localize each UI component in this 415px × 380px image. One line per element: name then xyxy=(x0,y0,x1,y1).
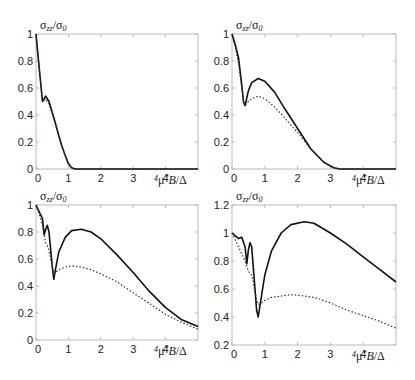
y-axis-label: σzz/σ0 xyxy=(40,18,67,33)
dotted-curve xyxy=(232,34,396,169)
x-axis-label: 4μ*B/Δ xyxy=(352,349,385,363)
y-tick-label: 0 xyxy=(27,163,33,175)
x-axis-label: 4μ*B/Δ xyxy=(352,173,385,187)
x-tick-label: 3 xyxy=(130,172,136,184)
x-tick-label: 3 xyxy=(130,343,136,355)
y-tick-label: 0.8 xyxy=(18,55,33,67)
y-tick-label: 0.8 xyxy=(214,55,229,67)
y-tick-label: 0.4 xyxy=(18,280,33,292)
y-tick-label: 0.2 xyxy=(18,136,33,148)
y-axis-label: σzz/σ0 xyxy=(236,18,263,33)
figure: 0123400.20.40.60.81σzz/σ04μ*B/Δ 0123400.… xyxy=(0,0,415,380)
x-tick-label: 1 xyxy=(65,172,71,184)
x-tick-label: 3 xyxy=(327,348,333,360)
plot-frame xyxy=(36,205,198,340)
x-tick-label: 1 xyxy=(262,172,268,184)
dotted-curve xyxy=(232,233,396,328)
x-tick-label: 2 xyxy=(295,348,301,360)
x-tick-label: 2 xyxy=(98,172,104,184)
panel-bottom-right: 012340.20.40.60.811.2σzz/σ04μ*B/Δ xyxy=(214,189,396,363)
y-tick-label: 0.4 xyxy=(214,311,229,323)
y-tick-label: 0.4 xyxy=(18,109,33,121)
x-tick-label: 1 xyxy=(262,348,268,360)
y-tick-label: 1.2 xyxy=(214,199,229,211)
dotted-curve xyxy=(36,205,198,329)
x-tick-label: 0 xyxy=(231,172,237,184)
y-tick-label: 0 xyxy=(27,334,33,346)
y-axis-label: σzz/σ0 xyxy=(40,189,67,204)
x-axis-label: 4μ*B/Δ xyxy=(154,344,187,358)
y-tick-label: 1 xyxy=(27,199,33,211)
x-axis-label: 4μ*B/Δ xyxy=(154,173,187,187)
x-tick-label: 0 xyxy=(35,172,41,184)
y-tick-label: 0 xyxy=(223,163,229,175)
x-tick-label: 0 xyxy=(231,348,237,360)
dotted-curve xyxy=(36,34,198,169)
plot-frame xyxy=(232,205,396,345)
panel-top-left: 0123400.20.40.60.81σzz/σ04μ*B/Δ xyxy=(18,18,198,187)
y-tick-label: 0.6 xyxy=(214,283,229,295)
y-tick-label: 0.2 xyxy=(214,136,229,148)
solid-curve xyxy=(36,205,198,327)
y-tick-label: 1 xyxy=(27,28,33,40)
y-tick-label: 1 xyxy=(223,227,229,239)
y-tick-label: 0.6 xyxy=(18,82,33,94)
plot-frame xyxy=(232,34,396,169)
y-tick-label: 1 xyxy=(223,28,229,40)
solid-curve xyxy=(36,34,198,169)
plot-frame xyxy=(36,34,198,169)
x-tick-label: 1 xyxy=(65,343,71,355)
x-tick-label: 3 xyxy=(327,172,333,184)
y-tick-label: 0.6 xyxy=(18,253,33,265)
x-tick-label: 0 xyxy=(35,343,41,355)
y-axis-label: σzz/σ0 xyxy=(236,189,263,204)
solid-curve xyxy=(232,34,396,169)
y-tick-label: 0.4 xyxy=(214,109,229,121)
y-tick-label: 0.8 xyxy=(18,226,33,238)
y-tick-label: 0.2 xyxy=(214,339,229,351)
panel-top-right: 0123400.20.40.60.81σzz/σ04μ*B/Δ xyxy=(214,18,396,187)
x-tick-label: 2 xyxy=(295,172,301,184)
y-tick-label: 0.8 xyxy=(214,255,229,267)
y-tick-label: 0.2 xyxy=(18,307,33,319)
solid-curve xyxy=(232,222,396,317)
x-tick-label: 2 xyxy=(98,343,104,355)
panel-bottom-left: 0123400.20.40.60.81σzz/σ04μ*B/Δ xyxy=(18,189,198,358)
y-tick-label: 0.6 xyxy=(214,82,229,94)
